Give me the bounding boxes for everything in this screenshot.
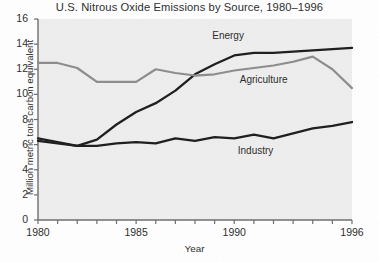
series-label-industry: Industry bbox=[238, 145, 274, 156]
y-tick-label: 0 bbox=[2, 213, 28, 225]
y-tick-label: 10 bbox=[2, 87, 28, 99]
y-tick-label: 4 bbox=[2, 163, 28, 175]
y-tick-label: 2 bbox=[2, 188, 28, 200]
x-tick-label: 1996 bbox=[332, 226, 372, 238]
x-tick-label: 1980 bbox=[18, 226, 58, 238]
plot-background bbox=[38, 19, 352, 220]
chart-figure: U.S. Nitrous Oxide Emissions by Source, … bbox=[0, 0, 379, 262]
plot-area bbox=[0, 0, 379, 262]
series-label-energy: Energy bbox=[212, 30, 244, 41]
series-label-agriculture: Agriculture bbox=[240, 74, 288, 85]
x-tick-label: 1990 bbox=[214, 226, 254, 238]
y-tick-label: 8 bbox=[2, 113, 28, 125]
y-tick-label: 12 bbox=[2, 62, 28, 74]
y-tick-label: 16 bbox=[2, 12, 28, 24]
y-tick-label: 14 bbox=[2, 37, 28, 49]
x-tick-label: 1985 bbox=[116, 226, 156, 238]
y-tick-label: 6 bbox=[2, 138, 28, 150]
